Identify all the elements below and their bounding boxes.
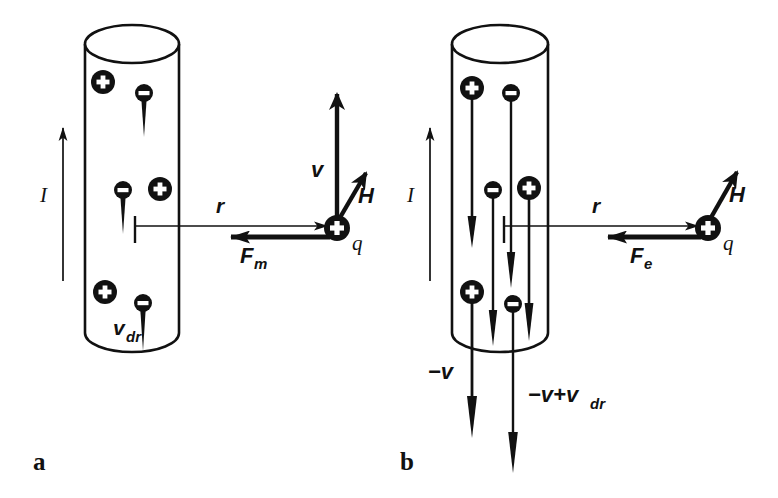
magnetic-force-label-a: F m [240, 243, 267, 272]
electric-force-subscript-b: e [644, 255, 652, 272]
velocity-label-a: v [311, 157, 325, 182]
cylinder-top-ellipse [452, 25, 548, 63]
test-charge-b [695, 215, 721, 241]
current-label-b: I [406, 183, 415, 207]
minus-v-label-b: −v [428, 359, 455, 384]
diagram-canvas: I [0, 0, 778, 498]
svg-text:F: F [630, 243, 644, 268]
magnetic-force-subscript-a: m [254, 255, 267, 272]
test-charge-a [324, 215, 350, 241]
panel-b: I [400, 25, 746, 475]
charge-positive-a-1 [91, 70, 115, 94]
charge-positive-a-2 [148, 177, 172, 201]
panel-a: I [33, 25, 375, 475]
current-label-a: I [39, 183, 48, 207]
radius-label-a: r [216, 194, 226, 217]
panel-letter-a: a [33, 448, 46, 475]
panel-letter-b: b [400, 448, 414, 475]
magnetic-field-label-b: H [729, 182, 746, 207]
magnetic-field-label-a: H [358, 183, 375, 208]
test-charge-label-b: q [723, 231, 734, 255]
cylinder-top-ellipse [85, 25, 179, 63]
test-charge-label-a: q [352, 231, 363, 255]
electric-force-label-b: F e [630, 243, 652, 272]
svg-text:F: F [240, 243, 254, 268]
charge-positive-a-3 [93, 280, 117, 304]
physics-figure: I [0, 0, 778, 498]
minus-v-plus-vdr-label-b: −v+v dr [528, 382, 606, 412]
drift-velocity-subscript-a: dr [126, 328, 142, 345]
svg-text:−v+v: −v+v [528, 382, 580, 407]
radius-label-b: r [592, 194, 602, 217]
svg-text:v: v [113, 316, 126, 339]
minus-v-plus-vdr-subscript-b: dr [590, 395, 606, 412]
